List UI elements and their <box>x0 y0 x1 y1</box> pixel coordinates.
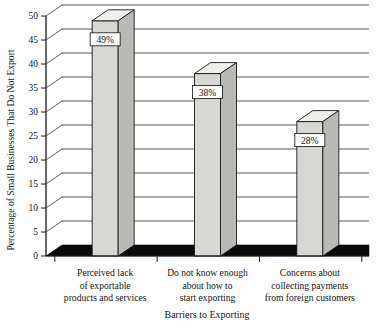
bar-side-face <box>118 10 134 256</box>
y-tick-label: 35 <box>29 83 39 93</box>
data-label: 38% <box>199 88 217 98</box>
category-labels-group: Perceived lackof exportableproducts and … <box>64 267 355 303</box>
category-label-line: of exportable <box>80 280 131 291</box>
bar-chart: 05101520253035404550 49%38%28% Perceived… <box>0 0 379 331</box>
y-axis-title: Percentage of Small Businesses That Do N… <box>5 49 16 250</box>
y-tick-label: 15 <box>29 179 39 189</box>
y-tick-label: 25 <box>29 131 39 141</box>
category-label-line: Perceived lack <box>77 267 133 278</box>
category-label-line: start exporting <box>180 292 236 303</box>
data-label: 28% <box>301 136 319 146</box>
y-tick-label: 30 <box>29 107 39 117</box>
y-tick-label: 10 <box>29 203 39 213</box>
category-label-line: about how to <box>182 280 232 291</box>
bar-front-face <box>195 74 221 256</box>
y-tick-label: 0 <box>33 251 38 261</box>
category-label-line: from foreign customers <box>265 292 355 303</box>
y-tick-label: 5 <box>33 227 38 237</box>
y-tick-label: 20 <box>29 155 39 165</box>
category-label-line: products and services <box>64 292 147 303</box>
category-label-line: Concerns about <box>280 267 340 278</box>
y-tick-label: 40 <box>29 59 39 69</box>
y-tick-label: 50 <box>29 11 39 21</box>
bar-side-face <box>323 111 339 256</box>
y-tick-label: 45 <box>29 35 39 45</box>
chart-canvas: 05101520253035404550 49%38%28% Perceived… <box>0 0 379 331</box>
bar-front-face <box>92 21 118 256</box>
category-label-line: Do not know enough <box>167 267 248 278</box>
x-axis-title: Barriers to Exporting <box>165 309 250 320</box>
category-label-line: collecting payments <box>271 280 348 291</box>
data-label: 49% <box>96 35 114 45</box>
